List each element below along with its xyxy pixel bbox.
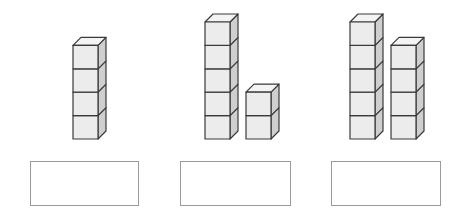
cube-front-face [391,116,416,139]
cube-front-face [205,92,230,115]
cube-front-face [73,69,98,92]
unit-cube [350,14,383,45]
unit-cube [205,14,238,45]
group-3 [350,14,424,139]
cube-front-face [246,116,271,139]
cube-front-face [391,92,416,115]
cube-front-face [350,45,375,68]
unit-cube [391,37,424,68]
cube-front-face [205,45,230,68]
group-1 [73,37,106,139]
cube-front-face [205,69,230,92]
cube-front-face [350,22,375,45]
cube-front-face [73,92,98,115]
cube-front-face [350,116,375,139]
cube-stack [391,37,424,139]
group-2 [205,14,279,139]
answer-input[interactable] [181,162,290,205]
answer-input[interactable] [31,162,138,205]
answer-box[interactable] [30,161,139,206]
cube-front-face [391,69,416,92]
cube-front-face [350,92,375,115]
cube-front-face [391,45,416,68]
cube-front-face [73,45,98,68]
cube-front-face [73,116,98,139]
cube-stack [73,37,106,139]
unit-cube [246,84,279,115]
cube-stack [350,14,383,139]
cube-front-face [205,116,230,139]
unit-cube [73,37,106,68]
answer-box[interactable] [180,161,291,206]
cube-stack [246,84,279,139]
answer-box[interactable] [331,161,441,206]
cube-stack [205,14,238,139]
cube-front-face [350,69,375,92]
cube-front-face [246,92,271,115]
answer-input[interactable] [332,162,440,205]
cube-front-face [205,22,230,45]
